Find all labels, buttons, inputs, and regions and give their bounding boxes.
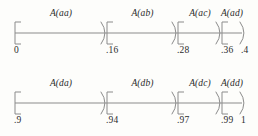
tick-label-bottom-4: 1 xyxy=(241,115,246,125)
number-line-bottom: A(da)A(db)A(dc)A(dd).9.94.97.991 xyxy=(0,70,258,132)
tick-label-bottom-2: .97 xyxy=(177,115,189,125)
tick-label-top-1: .16 xyxy=(106,45,118,55)
axis-graphic-top xyxy=(0,0,258,62)
segment-label-adb: A(db) xyxy=(131,78,153,88)
segment-label-add: A(dd) xyxy=(221,78,243,88)
tick-label-top-0: 0 xyxy=(14,45,19,55)
tick-label-bottom-1: .94 xyxy=(106,115,118,125)
segment-label-aab: A(ab) xyxy=(131,8,153,18)
tick-label-bottom-3: .99 xyxy=(221,115,233,125)
segment-label-aad: A(ad) xyxy=(221,8,243,18)
tick-label-top-3: .36 xyxy=(221,45,233,55)
segment-label-adc: A(dc) xyxy=(189,78,211,88)
number-line-top: A(aa)A(ab)A(ac)A(ad)0.16.28.36.4 xyxy=(0,0,258,62)
tick-label-top-2: .28 xyxy=(177,45,189,55)
tick-label-bottom-0: .9 xyxy=(14,115,22,125)
segment-label-aac: A(ac) xyxy=(189,8,211,18)
interval-subdivision-diagram: A(aa)A(ab)A(ac)A(ad)0.16.28.36.4A(da)A(d… xyxy=(0,0,258,136)
tick-label-top-4: .4 xyxy=(241,45,249,55)
axis-graphic-bottom xyxy=(0,70,258,132)
segment-label-aaa: A(aa) xyxy=(50,8,72,18)
segment-label-ada: A(da) xyxy=(50,78,72,88)
